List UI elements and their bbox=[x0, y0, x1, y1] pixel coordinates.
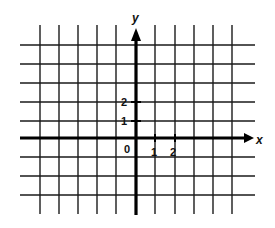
origin-label: 0 bbox=[124, 143, 130, 155]
y-axis-arrow-icon bbox=[131, 28, 141, 41]
x-axis-label: x bbox=[255, 133, 264, 147]
x-axis-arrow-icon bbox=[244, 133, 254, 143]
x-tick-label-2: 2 bbox=[170, 146, 176, 158]
y-tick-label-1: 1 bbox=[121, 115, 127, 127]
tick-marks bbox=[131, 102, 175, 142]
x-tick-label-1: 1 bbox=[151, 146, 157, 158]
y-tick-label-2: 2 bbox=[121, 96, 127, 108]
y-axis-label: y bbox=[131, 11, 140, 25]
coordinate-plane: y x 0 1 2 1 2 bbox=[0, 0, 275, 228]
